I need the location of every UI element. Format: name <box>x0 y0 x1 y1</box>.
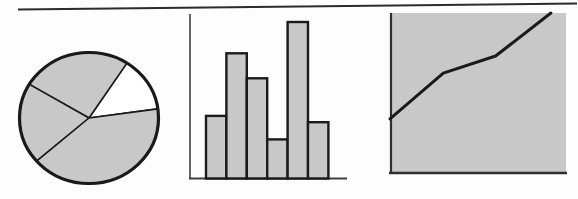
pie-chart <box>20 53 159 184</box>
figure-canvas <box>0 0 578 199</box>
top-rule <box>18 4 577 10</box>
line-chart <box>389 13 567 174</box>
bar-chart <box>189 14 347 179</box>
charts-figure <box>0 0 578 199</box>
